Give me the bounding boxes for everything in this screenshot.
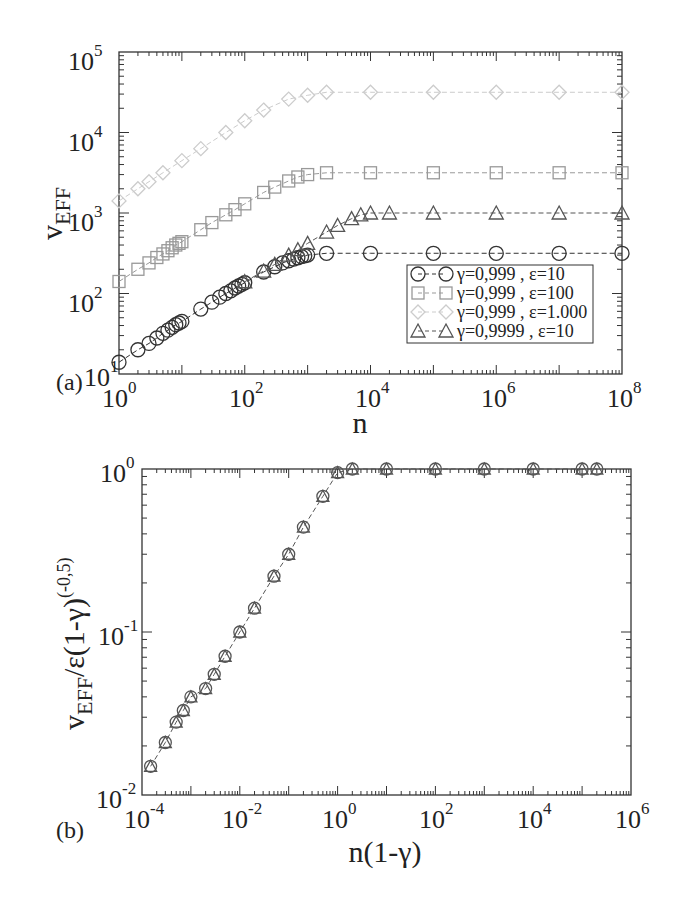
xtick-b-2: 102 <box>419 799 454 834</box>
xtick-b-0: 100 <box>322 799 357 834</box>
ytick-a-2: 102 <box>68 283 103 318</box>
y-axis-title-b: vEFF/ε(1-γ)(-0,5) <box>54 557 97 730</box>
xtick-a-2: 102 <box>229 378 264 413</box>
xtick-b-6: 106 <box>615 799 650 834</box>
panel-a: 105 104 103 102 101 100 102 104 106 108 … <box>35 41 642 439</box>
legend-entry-4: γ=0,9999 , ε=10 <box>456 321 574 341</box>
x-axis-title-b: n(1-γ) <box>348 835 421 869</box>
xtick-a-0: 100 <box>102 378 137 413</box>
xtick-b-m2: 10-2 <box>222 799 262 834</box>
xtick-a-6: 106 <box>481 378 516 413</box>
panel-label-a: (a) <box>56 369 83 395</box>
panel-label-b: (b) <box>56 817 84 843</box>
axis-ticks-b <box>142 469 631 795</box>
plot-frame-b <box>142 469 631 795</box>
ytick-b-1: 10-1 <box>98 616 138 651</box>
legend-entry-1: γ=0,999 , ε=10 <box>456 264 565 284</box>
xtick-b-4: 104 <box>517 799 552 834</box>
ytick-b-0: 100 <box>100 453 135 488</box>
figure: 105 104 103 102 101 100 102 104 106 108 … <box>0 0 681 897</box>
panel-b: 100 10-1 10-2 10-4 10-2 100 102 104 106 … <box>54 453 650 869</box>
xtick-a-8: 108 <box>607 378 642 413</box>
ytick-a-5: 105 <box>68 41 103 76</box>
legend: γ=0,999 , ε=10 γ=0,999 , ε=100 γ=0,999 ,… <box>407 264 593 343</box>
legend-entry-2: γ=0,999 , ε=100 <box>456 283 574 303</box>
ytick-a-4: 104 <box>68 122 103 157</box>
data-series-b <box>145 463 603 772</box>
x-axis-title-a: n <box>353 406 368 439</box>
legend-entry-3: γ=0,999 , ε=1.000 <box>456 302 587 322</box>
xtick-b-m4: 10-4 <box>124 799 165 834</box>
